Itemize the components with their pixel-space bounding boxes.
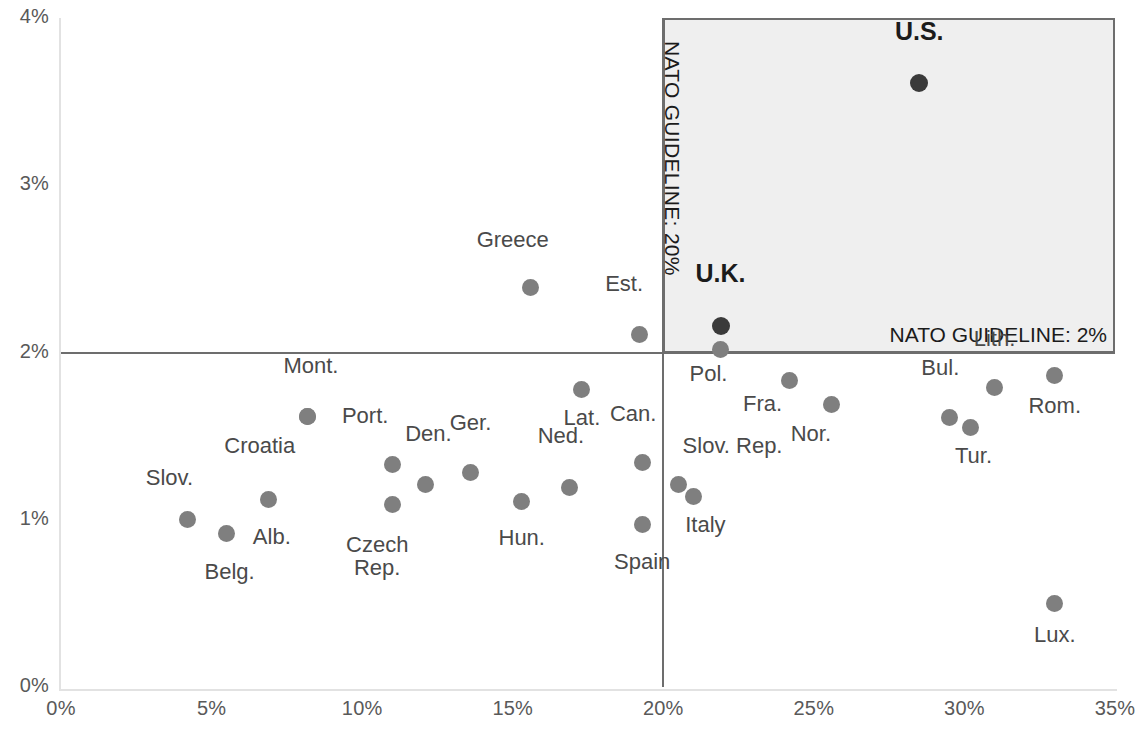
point-label-bul: Bul. [921, 356, 959, 380]
point-label-rom: Rom. [1028, 394, 1081, 418]
data-point-czech-rep[interactable] [384, 496, 401, 513]
point-label-lux: Lux. [1034, 623, 1076, 647]
point-label-den: Den. [405, 422, 451, 446]
point-label-mont: Mont. [283, 354, 338, 378]
data-point-bul[interactable] [941, 409, 958, 426]
point-label-nor: Nor. [791, 422, 831, 446]
x-tick-label-1: 5% [152, 697, 272, 720]
data-point-pol[interactable] [712, 341, 729, 358]
data-point-port[interactable] [384, 456, 401, 473]
point-label-belg: Belg. [205, 560, 255, 584]
point-label-est: Est. [605, 272, 643, 296]
data-point-u-k[interactable] [712, 317, 730, 335]
y-tick-label-1: 1% [0, 507, 49, 530]
data-point-den[interactable] [417, 476, 434, 493]
point-label-slov: Slov. [146, 466, 193, 490]
point-label-alb: Alb. [253, 525, 291, 549]
x-tick-label-3: 15% [453, 697, 573, 720]
point-label-croatia: Croatia [224, 434, 295, 458]
x-tick-label-2: 10% [302, 697, 422, 720]
nato-guideline-2pct-line [61, 352, 1115, 354]
data-point-spain[interactable] [634, 516, 651, 533]
point-label-slov-rep: Slov. Rep. [683, 434, 783, 458]
point-label-spain: Spain [614, 550, 670, 574]
data-point-est[interactable] [631, 326, 648, 343]
point-label-u-s: U.S. [895, 18, 944, 45]
x-tick-label-0: 0% [1, 697, 121, 720]
data-point-lith[interactable] [986, 379, 1003, 396]
y-tick-label-4: 4% [0, 5, 49, 28]
point-label-u-k: U.K. [696, 260, 746, 287]
data-point-hun[interactable] [513, 493, 530, 510]
point-label-can: Can. [610, 402, 656, 426]
data-point-italy[interactable] [685, 488, 702, 505]
point-label-port: Port. [342, 404, 388, 428]
point-label-tur: Tur. [955, 444, 992, 468]
point-label-fra: Fra. [743, 392, 782, 416]
x-tick-label-5: 25% [754, 697, 874, 720]
point-label-czech-rep: CzechRep. [346, 533, 408, 580]
y-tick-label-0: 0% [0, 674, 49, 697]
point-label-pol: Pol. [689, 362, 727, 386]
point-label-lat: Lat. [564, 406, 601, 430]
point-label-ger: Ger. [450, 411, 492, 435]
data-point-belg[interactable] [218, 525, 235, 542]
scatter-chart: 0%1%2%3%4%0%5%10%15%20%25%30%35%NATO GUI… [0, 0, 1148, 748]
point-label-greece: Greece [477, 228, 549, 252]
nato-guideline-20pct-label: NATO GUIDELINE: 20% [660, 41, 684, 276]
data-point-mont[interactable] [299, 408, 316, 425]
x-tick-label-6: 30% [904, 697, 1024, 720]
x-tick-label-7: 35% [1055, 697, 1148, 720]
x-tick-label-4: 20% [603, 697, 723, 720]
data-point-greece[interactable] [522, 279, 539, 296]
point-label-lith: Lith. [974, 327, 1016, 351]
data-point-slov-rep[interactable] [670, 476, 687, 493]
y-tick-label-3: 3% [0, 172, 49, 195]
data-point-can[interactable] [634, 454, 651, 471]
point-label-hun: Hun. [498, 526, 544, 550]
nato-highlight-region [663, 18, 1115, 353]
nato-guideline-2pct-label: NATO GUIDELINE: 2% [0, 323, 1107, 347]
point-label-italy: Italy [685, 513, 725, 537]
